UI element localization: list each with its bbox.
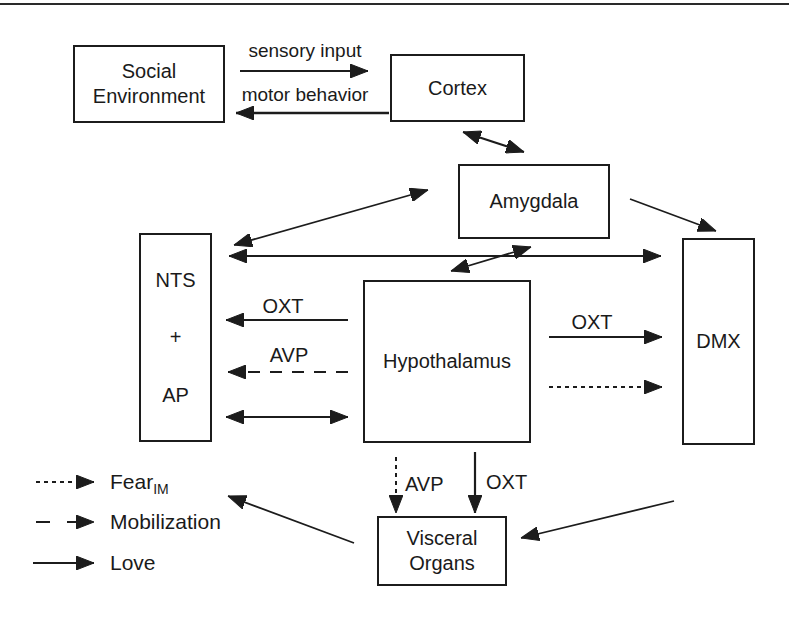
arrow-right-to-visceral (521, 501, 674, 538)
label-oxt-to-nts: OXT (256, 295, 310, 318)
legend-label-fear: FearIM (110, 470, 169, 494)
box-cortex-label: Cortex (428, 76, 487, 101)
legend-label-mobilization: Mobilization (110, 510, 221, 534)
label-sensory-input: sensory input (240, 40, 370, 62)
arrow-cortex-amygdala (463, 132, 524, 152)
box-hypothalamus-label: Hypothalamus (383, 349, 511, 374)
arrow-nts-amygdala (234, 190, 428, 245)
arrow-amygdala-hypothalamus (451, 247, 531, 271)
label-oxt-to-visceral: OXT (486, 471, 534, 494)
label-motor-behavior: motor behavior (237, 84, 373, 106)
box-social-environment: Social Environment (73, 45, 225, 123)
box-visceral-organs: Visceral Organs (377, 516, 507, 586)
legend-label-fear-text: Fear (110, 470, 153, 493)
box-nts-ap-label-line2: + (170, 325, 182, 350)
box-dmx: DMX (682, 238, 755, 445)
box-cortex: Cortex (390, 54, 525, 122)
arrow-amygdala-dmx (630, 199, 716, 231)
box-social-environment-label-line1: Social (122, 59, 176, 84)
box-visceral-organs-label-line1: Visceral (407, 526, 478, 551)
label-avp-to-visceral: AVP (405, 473, 453, 496)
box-visceral-organs-label-line2: Organs (409, 551, 475, 576)
label-avp-to-nts: AVP (262, 344, 316, 367)
box-nts-ap: NTS + AP (139, 233, 212, 442)
box-dmx-label: DMX (696, 329, 740, 354)
diagram-canvas: Social Environment Cortex Amygdala NTS +… (0, 0, 789, 618)
box-nts-ap-label-line3: AP (162, 383, 189, 408)
box-nts-ap-label-line1: NTS (156, 268, 196, 293)
arrow-visceral-to-nts (228, 496, 354, 543)
legend-label-love: Love (110, 551, 156, 575)
legend-label-mobilization-text: Mobilization (110, 510, 221, 533)
box-social-environment-label-line2: Environment (93, 84, 205, 109)
legend-label-love-text: Love (110, 551, 156, 574)
box-hypothalamus: Hypothalamus (363, 280, 531, 443)
box-amygdala: Amygdala (458, 164, 610, 239)
legend-label-fear-subscript: IM (153, 481, 169, 497)
label-oxt-to-dmx: OXT (566, 311, 618, 334)
box-amygdala-label: Amygdala (490, 189, 579, 214)
